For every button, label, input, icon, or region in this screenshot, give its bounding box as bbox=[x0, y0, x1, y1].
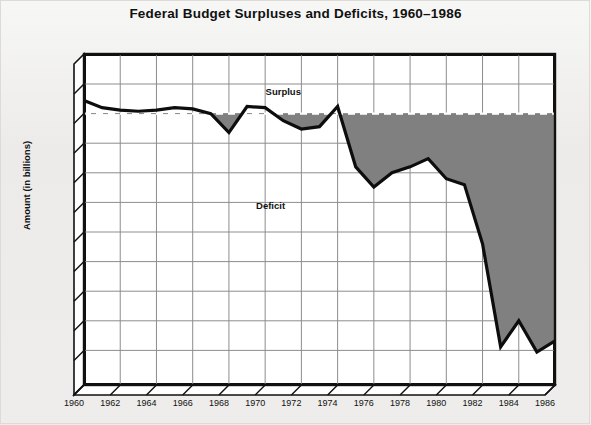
x-tick-label: 1970 bbox=[235, 398, 275, 408]
x-tick-label: 1966 bbox=[163, 398, 203, 408]
plot-border bbox=[84, 54, 555, 385]
plot-frame bbox=[84, 54, 555, 385]
x-tick-label: 1980 bbox=[416, 398, 456, 408]
x-tick-label: 1974 bbox=[308, 398, 348, 408]
x-tick-label: 1962 bbox=[90, 398, 130, 408]
axis-left-bevel bbox=[74, 54, 84, 395]
y-axis-title: Amount (in billions) bbox=[21, 106, 32, 266]
deficit-label: Deficit bbox=[256, 199, 285, 210]
x-tick-label: 1986 bbox=[525, 398, 565, 408]
x-tick-label: 1968 bbox=[199, 398, 239, 408]
x-tick-label: 1960 bbox=[54, 398, 94, 408]
x-tick-label: 1964 bbox=[126, 398, 166, 408]
surplus-label: Surplus bbox=[266, 86, 301, 97]
axis-bottom-bevel bbox=[74, 385, 555, 395]
x-tick-label: 1972 bbox=[271, 398, 311, 408]
x-tick-label: 1978 bbox=[380, 398, 420, 408]
x-tick-label: 1982 bbox=[453, 398, 493, 408]
x-tick-label: 1984 bbox=[489, 398, 529, 408]
x-tick-label: 1976 bbox=[344, 398, 384, 408]
chart-title: Federal Budget Surpluses and Deficits, 1… bbox=[0, 6, 591, 21]
plot-area: $ 250− $ 25− $ 50− $ 75−$100−$125−$150−$… bbox=[84, 54, 555, 385]
